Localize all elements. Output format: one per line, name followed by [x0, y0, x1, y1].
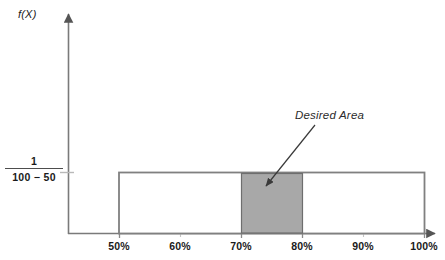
x-tick-label-80: 80% — [279, 240, 325, 252]
x-tick-label-70: 70% — [218, 240, 264, 252]
uniform-distribution-figure: f(X) 1 100 − 50 50% 60% 70% 80% 90% 100%… — [0, 0, 445, 260]
y-tick-label: 1 100 − 50 — [4, 155, 64, 183]
y-tick-denominator: 100 − 50 — [4, 170, 64, 183]
y-axis-label: f(X) — [18, 9, 37, 20]
fraction-bar — [5, 168, 63, 169]
x-tick-label-90: 90% — [340, 240, 386, 252]
y-tick-numerator: 1 — [4, 155, 64, 168]
desired-area-annotation-label: Desired Area — [295, 110, 364, 122]
x-tick-label-60: 60% — [157, 240, 203, 252]
x-tick-label-100: 100% — [401, 240, 445, 252]
desired-area-region — [242, 174, 303, 234]
plot-canvas — [0, 0, 445, 260]
x-tick-label-50: 50% — [96, 240, 142, 252]
